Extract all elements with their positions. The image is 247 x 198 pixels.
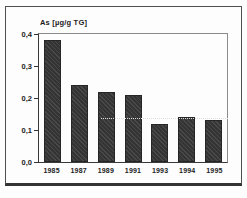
bar-slot-1994 <box>173 34 200 162</box>
x-label-1993: 1993 <box>147 167 174 174</box>
x-axis-labels: 1985198719891991199319941995 <box>38 167 228 174</box>
bar-1991 <box>125 95 142 162</box>
bar-1989 <box>98 92 115 162</box>
bar-slot-1985 <box>39 34 66 162</box>
x-label-1994: 1994 <box>174 167 201 174</box>
y-tick-label: 0,0 <box>22 158 32 167</box>
y-tick-label: 0,1 <box>22 126 32 135</box>
bar-1995 <box>205 120 222 162</box>
chart-title: As [µg/g TG] <box>40 18 87 27</box>
x-label-1991: 1991 <box>119 167 146 174</box>
bar-slot-1993 <box>146 34 173 162</box>
bar-slot-1989 <box>93 34 120 162</box>
x-label-1985: 1985 <box>38 167 65 174</box>
bar-1987 <box>71 85 88 162</box>
x-label-1995: 1995 <box>201 167 228 174</box>
y-tick-label: 0,4 <box>22 30 32 39</box>
bar-1994 <box>178 117 195 162</box>
plot-area: 0,40,30,20,10,0 <box>38 33 228 163</box>
figure-frame: As [µg/g TG] 0,40,30,20,10,0 19851987198… <box>5 6 242 186</box>
x-label-1987: 1987 <box>65 167 92 174</box>
bar-slot-1995 <box>200 34 227 162</box>
y-axis-tick <box>34 162 39 163</box>
bar-series <box>39 34 227 162</box>
y-tick-label: 0,2 <box>22 94 32 103</box>
bar-1985 <box>44 40 61 162</box>
bar-1993 <box>151 124 168 162</box>
bar-slot-1987 <box>66 34 93 162</box>
y-tick-label: 0,3 <box>22 62 32 71</box>
x-label-1989: 1989 <box>92 167 119 174</box>
bar-slot-1991 <box>120 34 147 162</box>
